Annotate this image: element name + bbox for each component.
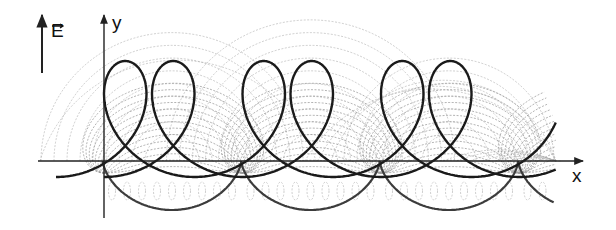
- field-label-e: E: [51, 21, 64, 40]
- family-curves: [40, 20, 561, 200]
- y-axis-label: y: [112, 13, 122, 32]
- trajectory-diagram: [0, 0, 616, 230]
- x-axis-label: x: [572, 166, 582, 185]
